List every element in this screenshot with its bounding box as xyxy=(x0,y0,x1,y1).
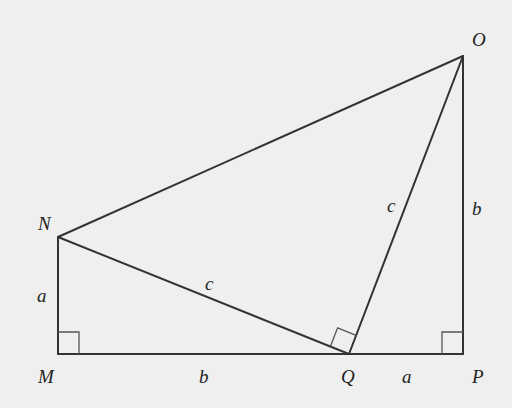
side-label-NQ: c xyxy=(205,273,214,294)
vertex-label-M: M xyxy=(37,366,55,387)
diagram-canvas: O N M Q P a b a b c c xyxy=(0,0,512,408)
right-angle-marker-M xyxy=(58,332,79,354)
vertex-label-O: O xyxy=(472,29,486,50)
segment-NQ xyxy=(58,237,349,354)
vertex-label-P: P xyxy=(471,366,484,387)
segment-QO xyxy=(349,56,463,354)
side-label-MQ: b xyxy=(199,366,209,387)
side-label-QO: c xyxy=(387,195,396,216)
vertex-label-Q: Q xyxy=(341,366,355,387)
vertex-label-N: N xyxy=(37,213,52,234)
right-angle-marker-P xyxy=(442,332,463,354)
segment-NO xyxy=(58,56,463,237)
side-label-PO: b xyxy=(472,198,482,219)
geometry-figure: O N M Q P a b a b c c xyxy=(0,0,512,408)
side-label-MN: a xyxy=(37,285,47,306)
side-label-QP: a xyxy=(402,366,412,387)
